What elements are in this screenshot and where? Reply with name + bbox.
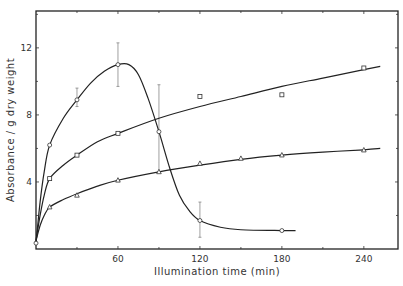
- y-tick-label: 12: [21, 43, 32, 53]
- circle-marker: [198, 219, 202, 223]
- series-curve: [36, 148, 380, 240]
- circle-marker: [116, 63, 120, 67]
- plot-frame: [36, 11, 398, 249]
- series-layer: [34, 43, 380, 245]
- series-squares: [36, 66, 380, 241]
- circle-marker: [280, 229, 284, 233]
- square-marker: [116, 131, 120, 135]
- x-axis-ticks: 60120180240: [77, 11, 373, 264]
- series-triangles: [36, 148, 380, 241]
- y-tick-label: 8: [26, 110, 32, 120]
- chart: 60120180240 4812 Illumination time (min)…: [0, 0, 403, 286]
- x-axis-title: Illumination time (min): [154, 266, 280, 277]
- x-tick-label: 240: [355, 254, 372, 264]
- y-axis-ticks: 4812: [21, 14, 398, 215]
- square-marker: [48, 177, 52, 181]
- x-tick-label: 180: [273, 254, 290, 264]
- series-circles: [34, 43, 296, 245]
- circle-marker: [34, 241, 38, 245]
- square-marker: [75, 153, 79, 157]
- square-marker: [198, 94, 202, 98]
- circle-marker: [48, 143, 52, 147]
- square-marker: [280, 93, 284, 97]
- plot-border: [36, 11, 398, 249]
- y-tick-label: 4: [26, 177, 32, 187]
- y-axis-title: Absorbance / g dry weight: [5, 58, 16, 202]
- circle-marker: [157, 130, 161, 134]
- x-tick-label: 60: [112, 254, 124, 264]
- square-marker: [362, 66, 366, 70]
- triangle-marker: [47, 204, 52, 208]
- triangle-marker: [239, 156, 244, 160]
- triangle-marker: [198, 161, 203, 165]
- series-curve: [36, 66, 380, 240]
- circle-marker: [75, 98, 79, 102]
- x-tick-label: 120: [191, 254, 208, 264]
